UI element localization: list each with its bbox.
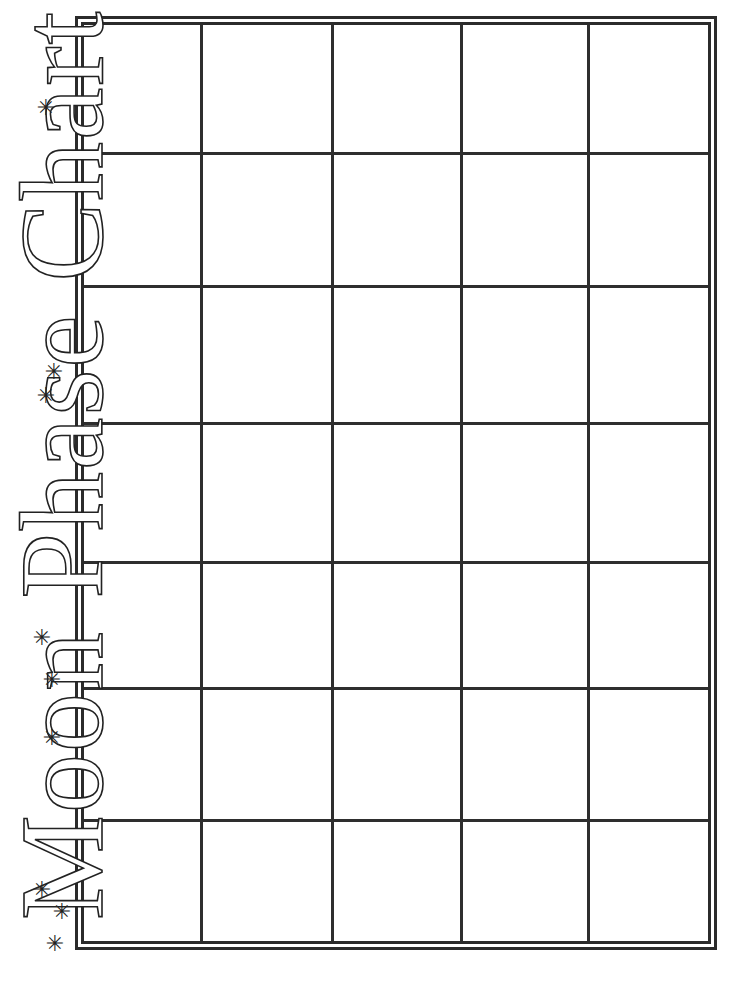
grid-cell[interactable]: [203, 822, 331, 938]
grid-cell[interactable]: [203, 155, 331, 285]
star-icon: ✳: [43, 669, 61, 691]
star-icon: ✳: [53, 901, 71, 923]
grid-cell[interactable]: [203, 690, 331, 819]
grid-cell[interactable]: [590, 25, 705, 152]
grid-cell[interactable]: [590, 155, 705, 285]
grid-cell[interactable]: [463, 822, 587, 938]
grid-cell[interactable]: [463, 155, 587, 285]
grid-cell[interactable]: [590, 425, 705, 561]
star-icon: ✳: [46, 933, 64, 955]
grid-cell[interactable]: [203, 564, 331, 687]
grid-cell[interactable]: [590, 690, 705, 819]
page-title: Moon Phase Chart: [4, 20, 122, 920]
grid-cell[interactable]: [463, 425, 587, 561]
star-icon: ✳: [37, 97, 55, 119]
grid-cell[interactable]: [203, 25, 331, 152]
grid-cell[interactable]: [463, 288, 587, 422]
star-icon: ✳: [45, 361, 63, 383]
star-icon: ✳: [37, 385, 55, 407]
grid-cell[interactable]: [203, 425, 331, 561]
grid-cell[interactable]: [334, 288, 460, 422]
grid-cell[interactable]: [203, 288, 331, 422]
grid-cell[interactable]: [463, 25, 587, 152]
grid-cell[interactable]: [590, 822, 705, 938]
grid-cell[interactable]: [334, 155, 460, 285]
star-icon: ✳: [33, 879, 51, 901]
grid-cell[interactable]: [334, 564, 460, 687]
grid-cell[interactable]: [590, 564, 705, 687]
grid-cell[interactable]: [334, 425, 460, 561]
grid-cell[interactable]: [334, 25, 460, 152]
grid-cell[interactable]: [334, 822, 460, 938]
grid-cell[interactable]: [590, 288, 705, 422]
moon-phase-grid: [84, 25, 708, 941]
star-icon: ✳: [33, 627, 51, 649]
grid-cell[interactable]: [463, 564, 587, 687]
grid-cell[interactable]: [334, 690, 460, 819]
star-icon: ✳: [43, 727, 61, 749]
grid-cell[interactable]: [463, 690, 587, 819]
